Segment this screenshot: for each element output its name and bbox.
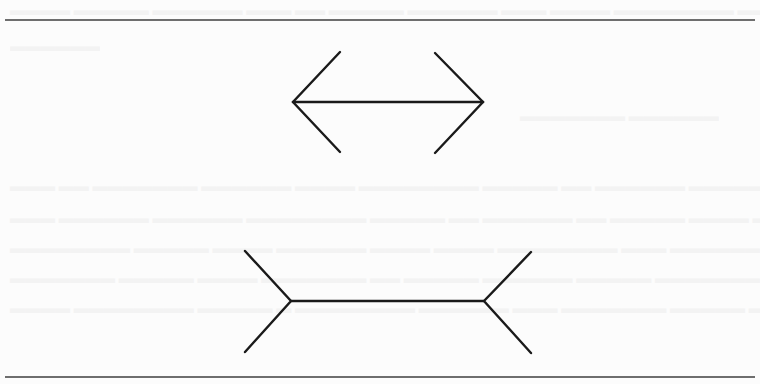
bottom-right-fins bbox=[484, 252, 531, 353]
bottom-left-fins bbox=[245, 251, 291, 352]
scanned-page: ▬▬▬▬ ▬▬▬ ▬▬▬▬▬▬▬▬ ▬▬▬▬ ▬▬▬ ▬▬▬▬▬▬ ▬▬▬▬▬ … bbox=[0, 0, 760, 384]
top-figure-arrowheads-in bbox=[293, 52, 483, 153]
bottom-figure-fins-out bbox=[245, 251, 531, 353]
muller-lyer-diagram bbox=[0, 0, 760, 384]
